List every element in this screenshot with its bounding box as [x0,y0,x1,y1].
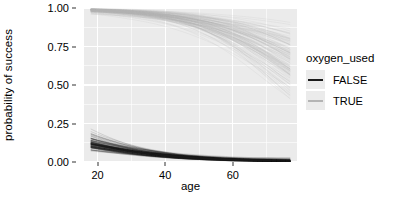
legend-entry-label: FALSE [333,74,367,86]
y-axis-tick-mark [72,162,76,163]
y-axis-tick-labels: 0.000.250.500.751.00 [17,0,77,170]
y-axis-tick-mark [72,123,76,124]
y-axis-tick-label: 0.50 [48,79,69,91]
y-axis-tick-mark [72,8,76,9]
curve-group-true [91,8,290,98]
y-axis-tick-label: 0.75 [48,41,69,53]
y-axis-title-text: probability of success [3,29,15,141]
legend-key-swatch [306,91,325,110]
x-axis-title: age [84,180,297,192]
y-axis-tick-label: 0.25 [48,118,69,130]
plot-panel [84,8,297,162]
x-axis-tick-mark [97,162,98,166]
y-axis-tick-label: 1.00 [48,2,69,14]
y-axis-title: probability of success [0,0,17,170]
legend-entry-label: TRUE [333,95,363,107]
x-axis-tick-mark [232,162,233,166]
y-axis-tick-mark [72,46,76,47]
legend-entry: FALSE [306,69,396,90]
y-axis-tick-mark [72,85,76,86]
curve-group-false [91,129,290,162]
legend-key-swatch [306,70,325,89]
legend-entry: TRUE [306,90,396,111]
curve-layer [84,8,297,162]
legend-key-line [308,100,323,102]
legend: oxygen_used FALSETRUE [306,52,396,111]
legend-key-line [308,79,323,81]
y-axis-tick-label: 0.00 [48,156,69,168]
legend-title: oxygen_used [306,52,396,64]
ggplot-chart: probability of success 0.000.250.500.751… [0,0,399,201]
legend-entries: FALSETRUE [306,69,396,111]
x-axis-tick-mark [165,162,166,166]
